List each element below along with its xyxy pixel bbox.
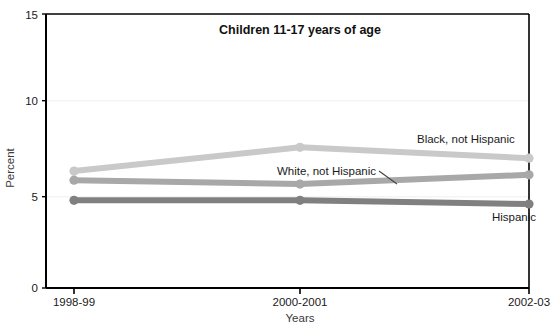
line-chart: 15 10 5 0 1998-99 2000-2001 2002-03 Year… — [0, 0, 558, 324]
y-tick-label-10: 10 — [25, 95, 38, 107]
data-point-hispanic-2002-03 — [524, 199, 533, 208]
x-axis-title: Years — [286, 312, 315, 324]
chart-container: 15 10 5 0 1998-99 2000-2001 2002-03 Year… — [0, 0, 558, 324]
x-tick-label-1998-99: 1998-99 — [53, 296, 95, 308]
series-label-black-not-hispanic: Black, not Hispanic — [417, 133, 515, 145]
data-point-hispanic-1998-99 — [69, 196, 78, 205]
y-axis-title: Percent — [4, 147, 16, 187]
chart-title: Children 11-17 years of age — [219, 23, 381, 37]
y-tick-label-5: 5 — [32, 191, 38, 203]
y-tick-label-15: 15 — [25, 9, 38, 21]
series-label-white-not-hispanic: White, not Hispanic — [277, 165, 376, 177]
data-point-white-2002-03 — [524, 170, 533, 179]
data-point-hispanic-2000-2001 — [295, 196, 304, 205]
data-point-black-1998-99 — [69, 167, 78, 176]
data-point-white-2000-2001 — [295, 180, 304, 189]
series-label-hispanic: Hispanic — [492, 211, 536, 223]
x-tick-label-2000-2001: 2000-2001 — [273, 296, 328, 308]
data-point-white-1998-99 — [69, 176, 78, 185]
x-tick-label-2002-03: 2002-03 — [508, 296, 550, 308]
data-point-black-2002-03 — [524, 154, 533, 163]
data-point-black-2000-2001 — [295, 143, 304, 152]
y-tick-label-0: 0 — [32, 282, 38, 294]
